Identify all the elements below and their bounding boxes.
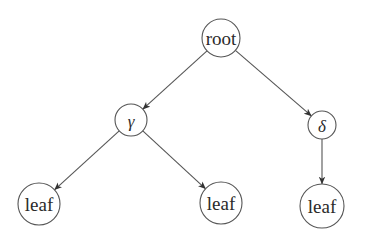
edge-root-to-delta — [235, 50, 311, 116]
edge-gamma-to-leaf2 — [143, 131, 206, 189]
edges-layer — [55, 50, 323, 189]
node-label: leaf — [308, 196, 337, 217]
tree-diagram: rootγδleafleafleaf — [0, 0, 365, 240]
node-gamma: γ — [115, 104, 147, 136]
node-leaf3: leaf — [300, 184, 344, 228]
node-delta: δ — [308, 111, 336, 139]
edge-gamma-to-leaf1 — [55, 131, 120, 190]
node-label: root — [206, 28, 237, 49]
edge-root-to-gamma — [143, 51, 207, 109]
node-root: root — [202, 19, 240, 57]
node-leaf2: leaf — [200, 182, 242, 224]
node-label: leaf — [25, 194, 54, 215]
node-leaf1: leaf — [18, 183, 60, 225]
node-label: leaf — [207, 193, 236, 214]
node-label: δ — [318, 117, 327, 136]
tree-diagram-svg: rootγδleafleafleaf — [0, 0, 365, 240]
nodes-layer: rootγδleafleafleaf — [18, 19, 344, 228]
